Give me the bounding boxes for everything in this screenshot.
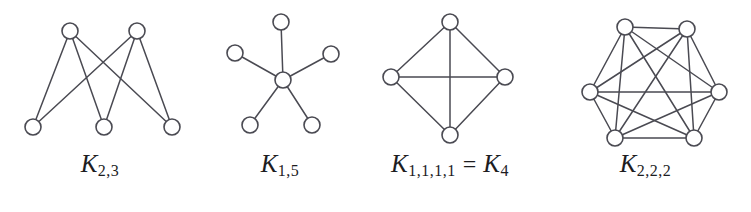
graph-k-4-svg xyxy=(360,0,540,150)
vertex xyxy=(383,69,399,85)
edge xyxy=(137,31,172,127)
vertex xyxy=(607,130,623,146)
vertex-center xyxy=(275,72,291,88)
vertex xyxy=(96,119,112,135)
vertex xyxy=(273,14,289,30)
vertices-k-2-3 xyxy=(25,23,180,135)
graph-k-1-5-svg xyxy=(200,0,360,150)
vertex xyxy=(711,84,727,100)
vertex xyxy=(617,19,633,35)
vertex xyxy=(242,117,258,133)
graph-label-subscript: 2,3 xyxy=(98,162,120,179)
edge xyxy=(391,77,450,135)
edges-k-2-2-2 xyxy=(590,27,719,138)
edge xyxy=(391,22,450,77)
graph-label-subscript: 1,1,1,1 xyxy=(408,162,456,179)
vertex xyxy=(497,69,513,85)
edge xyxy=(33,31,70,127)
graph-label-k-2-2-2: K2,2,2 xyxy=(540,150,751,180)
graph-label-subscript: 2,2,2 xyxy=(637,162,672,179)
graph-label-main-2: K xyxy=(483,150,500,177)
vertex xyxy=(227,45,243,61)
edge xyxy=(590,92,694,138)
graph-label-k-1-5: K1,5 xyxy=(200,150,360,180)
graph-k-2-3: K2,3 xyxy=(0,0,200,212)
graph-label-equals: = xyxy=(463,151,477,177)
vertex xyxy=(129,23,145,39)
graph-label-main: K xyxy=(81,150,98,177)
vertex xyxy=(679,21,695,37)
graph-label-subscript-2: 4 xyxy=(500,162,509,179)
graph-label-subscript: 1,5 xyxy=(278,162,300,179)
graph-k-1-1-1-1: K1,1,1,1=K4 xyxy=(360,0,540,212)
edge xyxy=(450,22,505,77)
vertices-k-4 xyxy=(383,14,513,143)
vertex xyxy=(582,84,598,100)
vertex xyxy=(304,117,320,133)
vertex xyxy=(164,119,180,135)
graph-label-main: K xyxy=(620,150,637,177)
vertex xyxy=(323,46,339,62)
graph-label-k-2-3: K2,3 xyxy=(0,150,200,180)
graph-k-2-3-svg xyxy=(0,0,200,150)
vertex xyxy=(62,23,78,39)
graph-label-main: K xyxy=(261,150,278,177)
edge xyxy=(687,29,694,138)
edge xyxy=(625,27,694,138)
vertices-k-1-5 xyxy=(227,14,339,133)
graph-k-1-5: K1,5 xyxy=(200,0,360,212)
graph-k-2-2-2: K2,2,2 xyxy=(540,0,751,212)
edges-k-4 xyxy=(391,22,505,135)
graph-figure-row: K2,3 K1,5 xyxy=(0,0,751,212)
graph-label-main: K xyxy=(391,150,408,177)
graph-label-k-4: K1,1,1,1=K4 xyxy=(360,150,540,180)
edges-k-2-3 xyxy=(33,31,172,127)
edge xyxy=(450,77,505,135)
edge xyxy=(687,29,719,92)
vertex xyxy=(25,119,41,135)
graph-k-2-2-2-svg xyxy=(540,0,751,150)
vertex xyxy=(686,130,702,146)
edge xyxy=(70,31,104,127)
vertex xyxy=(442,14,458,30)
edge xyxy=(625,27,687,29)
vertex xyxy=(442,127,458,143)
